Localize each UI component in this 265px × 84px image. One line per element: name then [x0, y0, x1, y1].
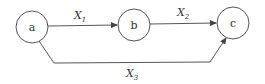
edge-b-to-c: X2: [150, 6, 216, 24]
node-b: b: [118, 9, 150, 41]
node-c: c: [217, 7, 249, 39]
edge-label-x3: X3: [125, 67, 139, 82]
graph-diagram: X1 X2 X3 a b c: [0, 0, 265, 84]
edge-a-to-c: X3: [39, 38, 226, 82]
edge-label-x1: X1: [73, 9, 86, 24]
edge-label-x2: X2: [176, 6, 190, 21]
node-a: a: [16, 11, 48, 43]
node-label-a: a: [29, 21, 36, 34]
edge-a-to-b: X1: [48, 9, 117, 26]
node-label-b: b: [130, 19, 137, 32]
node-label-c: c: [230, 17, 236, 30]
